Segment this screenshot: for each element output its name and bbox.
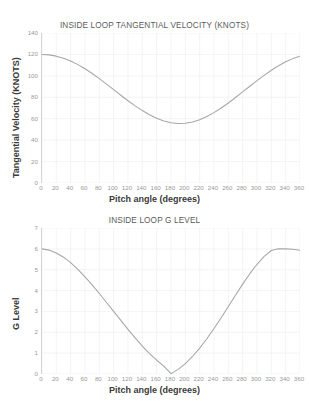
x-tick-label: 340 bbox=[279, 185, 289, 191]
x-tick-label: 200 bbox=[179, 185, 189, 191]
plot-svg bbox=[42, 33, 300, 183]
y-tick-label: 2 bbox=[12, 329, 38, 335]
x-tick-label: 220 bbox=[193, 376, 203, 382]
y-tick-label: 140 bbox=[12, 30, 38, 36]
x-tick-label: 180 bbox=[165, 185, 175, 191]
x-tick-label: 360 bbox=[294, 185, 304, 191]
y-tick-label: 5 bbox=[12, 267, 38, 273]
x-tick-label: 60 bbox=[81, 185, 88, 191]
x-tick-label: 120 bbox=[122, 185, 132, 191]
x-tick-label: 120 bbox=[122, 376, 132, 382]
x-tick-label: 80 bbox=[95, 376, 102, 382]
x-tick-label: 260 bbox=[222, 185, 232, 191]
x-tick-label: 320 bbox=[265, 185, 275, 191]
x-tick-label: 140 bbox=[136, 376, 146, 382]
x-tick-label: 300 bbox=[251, 376, 261, 382]
plot-svg bbox=[42, 228, 300, 374]
x-tick-label: 200 bbox=[179, 376, 189, 382]
plot-area bbox=[41, 33, 299, 183]
y-axis-title: G Level bbox=[11, 297, 21, 330]
x-tick-label: 280 bbox=[236, 376, 246, 382]
x-tick-label: 60 bbox=[81, 376, 88, 382]
y-tick-label: 4 bbox=[12, 287, 38, 293]
x-tick-label: 340 bbox=[279, 376, 289, 382]
x-tick-label: 0 bbox=[39, 185, 42, 191]
x-tick-label: 360 bbox=[294, 376, 304, 382]
x-tick-label: 220 bbox=[193, 185, 203, 191]
y-tick-label: 0 bbox=[12, 371, 38, 377]
x-tick-label: 180 bbox=[165, 376, 175, 382]
y-tick-label: 1 bbox=[12, 350, 38, 356]
x-tick-label: 240 bbox=[208, 376, 218, 382]
x-tick-label: 40 bbox=[66, 185, 73, 191]
x-tick-label: 260 bbox=[222, 376, 232, 382]
x-tick-label: 100 bbox=[107, 376, 117, 382]
x-tick-label: 320 bbox=[265, 376, 275, 382]
x-tick-label: 40 bbox=[66, 376, 73, 382]
x-tick-label: 300 bbox=[251, 185, 261, 191]
charts-page: INSIDE LOOP TANGENTIAL VELOCITY (KNOTS) … bbox=[0, 0, 309, 409]
x-tick-label: 140 bbox=[136, 185, 146, 191]
x-tick-label: 160 bbox=[150, 376, 160, 382]
y-tick-label: 7 bbox=[12, 225, 38, 231]
chart-title: INSIDE LOOP TANGENTIAL VELOCITY (KNOTS) bbox=[0, 21, 309, 30]
x-axis-title: Pitch angle (degrees) bbox=[0, 385, 309, 395]
x-tick-label: 160 bbox=[150, 185, 160, 191]
y-tick-label: 0 bbox=[12, 180, 38, 186]
chart-title: INSIDE LOOP G LEVEL bbox=[0, 216, 309, 225]
chart-tangential-velocity: INSIDE LOOP TANGENTIAL VELOCITY (KNOTS) … bbox=[0, 0, 309, 205]
x-tick-label: 280 bbox=[236, 185, 246, 191]
x-tick-label: 20 bbox=[52, 185, 59, 191]
x-tick-label: 240 bbox=[208, 185, 218, 191]
x-axis-title: Pitch angle (degrees) bbox=[0, 194, 309, 204]
x-tick-label: 80 bbox=[95, 185, 102, 191]
x-tick-label: 100 bbox=[107, 185, 117, 191]
y-axis-title: Tangential Velocity (KNOTS) bbox=[11, 57, 21, 178]
x-tick-label: 0 bbox=[39, 376, 42, 382]
y-tick-label: 6 bbox=[12, 246, 38, 252]
x-tick-label: 20 bbox=[52, 376, 59, 382]
plot-area bbox=[41, 228, 299, 374]
